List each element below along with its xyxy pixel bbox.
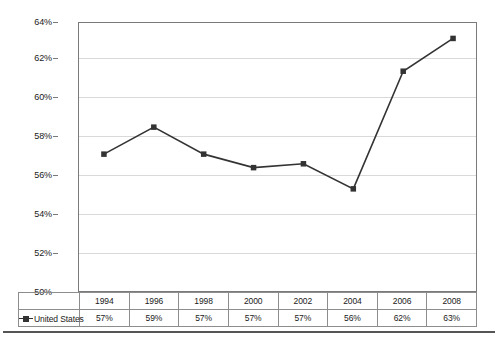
y-axis-tick-mark <box>53 97 58 98</box>
table-header-cell: 2006 <box>377 293 427 310</box>
series-united-states <box>79 23 478 293</box>
square-marker-icon <box>19 315 33 322</box>
table-header-cell: 2002 <box>278 293 328 310</box>
table-value-cell: 57% <box>80 310 130 327</box>
table-value-cell: 56% <box>328 310 378 327</box>
y-axis-tick-label: 58% <box>2 132 52 141</box>
table-row: United States 57% 59% 57% 57% 57% 56% 62… <box>19 310 477 327</box>
data-table: 1994 1996 1998 2000 2002 2004 2006 2008 … <box>18 292 477 327</box>
chart-figure: 64% 62% 60% 58% 56% 54% 52% 50% <box>0 0 499 343</box>
data-point-marker <box>201 151 207 157</box>
series-line <box>104 38 453 188</box>
y-axis-tick-mark <box>53 253 58 254</box>
table-value-cell: 62% <box>377 310 427 327</box>
legend-label: United States <box>34 313 84 323</box>
y-axis-tick-mark <box>53 136 58 137</box>
plot-area <box>78 22 477 292</box>
table-header-cell: 2000 <box>228 293 278 310</box>
data-point-marker <box>151 124 157 130</box>
y-axis-tick-label: 60% <box>2 93 52 102</box>
table-value-cell: 63% <box>427 310 477 327</box>
table-header-cell: 2008 <box>427 293 477 310</box>
y-axis-tick-mark <box>53 175 58 176</box>
y-axis-tick-mark <box>53 22 58 23</box>
bottom-divider <box>3 331 495 333</box>
data-point-marker <box>450 36 456 42</box>
data-point-marker <box>101 151 107 157</box>
y-axis-tick-mark <box>53 58 58 59</box>
y-axis-tick-mark <box>53 214 58 215</box>
y-axis-tick-label: 56% <box>2 171 52 180</box>
table-value-cell: 59% <box>129 310 179 327</box>
table-value-cell: 57% <box>228 310 278 327</box>
table-header-cell: 1998 <box>179 293 229 310</box>
y-axis-tick-label: 52% <box>2 249 52 258</box>
table-row-header: 1994 1996 1998 2000 2002 2004 2006 2008 <box>19 293 477 310</box>
table-header-cell: 1996 <box>129 293 179 310</box>
data-point-marker <box>301 161 307 167</box>
y-axis-tick-label: 62% <box>2 54 52 63</box>
y-axis-tick-label: 64% <box>2 18 52 27</box>
table-header-cell: 2004 <box>328 293 378 310</box>
series-markers <box>101 36 456 192</box>
legend-united-states: United States <box>19 310 80 327</box>
table-value-cell: 57% <box>179 310 229 327</box>
data-point-marker <box>251 165 257 171</box>
data-point-marker <box>400 68 406 74</box>
table-value-cell: 57% <box>278 310 328 327</box>
table-corner-blank <box>19 293 80 310</box>
y-axis-tick-label: 54% <box>2 210 52 219</box>
data-point-marker <box>351 186 357 192</box>
table-header-cell: 1994 <box>80 293 130 310</box>
